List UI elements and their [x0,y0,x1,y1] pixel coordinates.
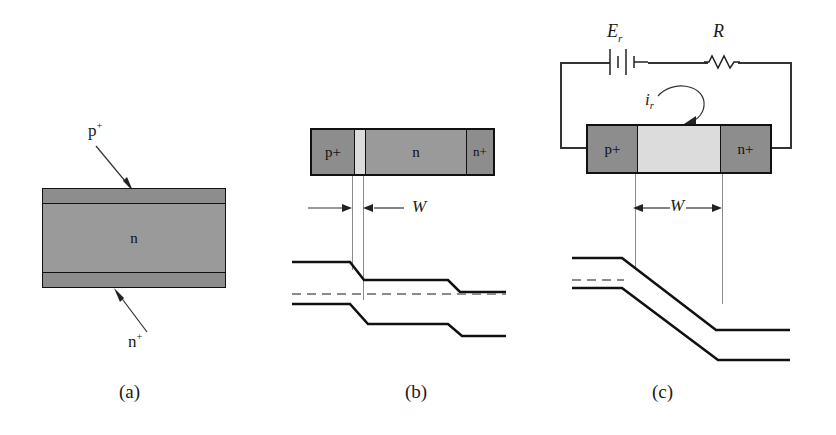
panel-c-caption: (c) [652,382,673,401]
panel-c-width-label: W [670,197,684,214]
panel-b-n-plus-label: n+ [473,144,487,160]
panel-a-n-plus-callout: n+ [128,333,142,350]
panel-c-band-diagram [568,246,808,346]
panel-c-device-bar: p+ n+ [586,124,772,174]
panel-c-wire-top-middle[interactable] [648,62,708,64]
panel-c-region-p-plus: p+ [588,126,637,172]
panel-c-resistor-label: R [713,22,724,40]
panel-c-wire-top-right[interactable] [738,62,792,64]
panel-c-region-n-plus: n+ [720,126,770,172]
panel-b-p-plus-label: p+ [325,144,341,161]
panel-c-source-label: Er [607,22,622,40]
panel-b-n-label: n [412,144,420,161]
resistor-icon[interactable] [704,52,744,74]
figure-root: p+ n n+ (a) [0,0,836,435]
panel-b-caption: (b) [405,382,427,401]
panel-c-region-depletion [637,126,720,172]
panel-b-region-depletion [354,130,365,174]
panel-b-band-diagram [288,246,518,328]
panel-b-width-label: W [412,198,426,215]
panel-c-wire-right-vertical[interactable] [790,62,792,148]
panel-b-region-p-plus: p+ [312,130,354,174]
battery-icon[interactable] [604,46,654,78]
panel-c-p-plus-label: p+ [605,141,621,158]
panel-c-current-label: ir [645,91,654,108]
panel-c-wire-top-left[interactable] [560,62,610,64]
panel-b-region-n: n [365,130,466,174]
panel-c-n-plus-label: n+ [738,141,754,158]
panel-b-region-n-plus: n+ [466,130,493,174]
panel-a-caption: (a) [119,382,140,401]
panel-c-wire-left-vertical[interactable] [560,62,562,148]
panel-b-device-bar: p+ n n+ [310,128,495,176]
